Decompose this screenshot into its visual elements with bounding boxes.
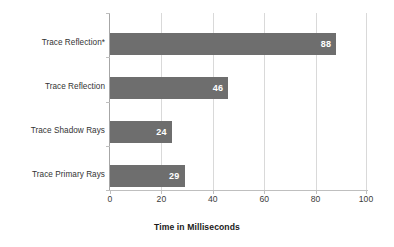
category-label-trace-reflection-star: Trace Reflection* [0, 36, 105, 50]
gridline-100 [366, 13, 367, 190]
x-axis-label-80: 80 [296, 194, 336, 204]
bar-value-label: 88 [321, 33, 331, 55]
x-axis-line [109, 190, 368, 191]
x-axis-label-40: 40 [193, 194, 233, 204]
bar-trace-shadow-rays[interactable]: 24 [110, 121, 172, 143]
bar-value-label: 46 [213, 77, 223, 99]
bar-value-label: 24 [156, 121, 166, 143]
x-axis-label-60: 60 [244, 194, 284, 204]
category-label-trace-shadow-rays: Trace Shadow Rays [0, 124, 105, 138]
x-axis-title: Time in Milliseconds [0, 222, 394, 232]
plot-area: 88 46 24 29 [110, 13, 367, 190]
bar-trace-primary-rays[interactable]: 29 [110, 165, 185, 187]
y-tick-0 [106, 13, 110, 14]
bar-value-label: 29 [169, 165, 179, 187]
x-axis-label-0: 0 [90, 194, 130, 204]
category-label-trace-primary-rays: Trace Primary Rays [0, 168, 105, 182]
category-label-trace-reflection: Trace Reflection [0, 80, 105, 94]
y-tick-3 [106, 146, 110, 147]
bar-chart: Trace Reflection* Trace Reflection Trace… [0, 0, 394, 247]
category-axis-labels: Trace Reflection* Trace Reflection Trace… [0, 13, 105, 190]
y-tick-1 [106, 57, 110, 58]
y-tick-2 [106, 102, 110, 103]
bar-trace-reflection-star[interactable]: 88 [110, 33, 336, 55]
x-axis-label-20: 20 [141, 194, 181, 204]
x-axis-tick-labels: 0 20 40 60 80 100 [110, 194, 367, 208]
bar-trace-reflection[interactable]: 46 [110, 77, 228, 99]
x-axis-label-100: 100 [346, 194, 386, 204]
